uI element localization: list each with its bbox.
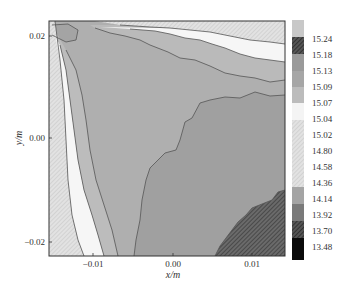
x-axis-label: x/m [165, 269, 180, 280]
colorbar: 15.24 15.18 15.13 15.09 15.07 15.04 15.0… [292, 20, 333, 260]
y-tick-label: 0.02 [29, 31, 45, 41]
colorbar-label: 14.58 [312, 162, 333, 172]
colorbar-label: 15.13 [312, 66, 333, 76]
y-axis-label: y/m [13, 131, 24, 146]
x-tick-label: 0.01 [244, 259, 260, 269]
colorbar-label: 15.02 [312, 130, 332, 140]
colorbar-label: 15.07 [312, 98, 333, 108]
colorbar-label: 15.04 [312, 114, 333, 124]
colorbar-label: 14.80 [312, 146, 333, 156]
colorbar-label: 14.14 [312, 194, 333, 204]
colorbar-label: 13.48 [312, 242, 333, 252]
colorbar-label: 15.18 [312, 50, 333, 60]
y-axis: 0.02 0.00 −0.02 y/m [13, 31, 52, 247]
x-tick-label: −0.01 [83, 259, 104, 269]
y-tick-label: −0.02 [24, 237, 45, 247]
y-tick-label: 0.00 [29, 133, 45, 143]
plot-area [49, 21, 285, 256]
x-tick-label: 0.00 [165, 259, 181, 269]
colorbar-label: 13.92 [312, 210, 332, 220]
colorbar-label: 15.24 [312, 34, 333, 44]
x-axis: −0.01 0.00 0.01 x/m [83, 253, 260, 280]
colorbar-label: 13.70 [312, 226, 333, 236]
contour-figure: 0.02 0.00 −0.02 y/m −0.01 0.00 0.01 x/m … [0, 0, 348, 287]
colorbar-label: 14.36 [312, 178, 333, 188]
colorbar-label: 15.09 [312, 82, 333, 92]
